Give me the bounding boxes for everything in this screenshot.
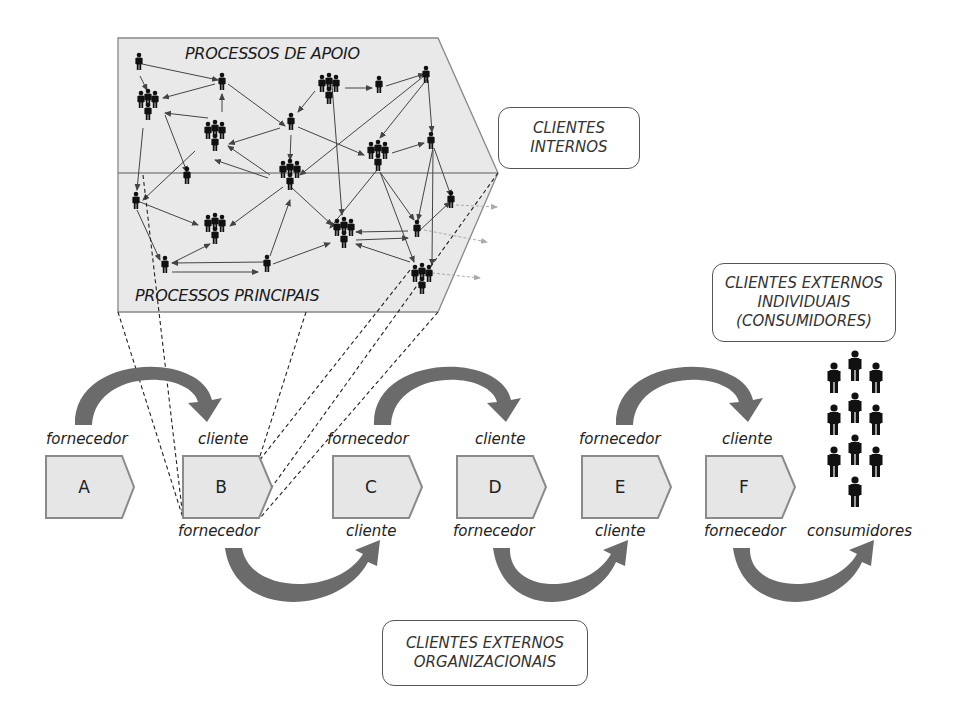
consumers-label: consumidores — [807, 522, 912, 540]
role-label-b-bottom: fornecedor — [178, 522, 260, 540]
role-label-d-top: cliente — [475, 430, 525, 448]
organizational-external-clients-callout: CLIENTES EXTERNOS ORGANIZACIONAIS — [382, 620, 588, 686]
role-label-e-top: fornecedor — [579, 430, 661, 448]
callout-line: CLIENTES EXTERNOS — [383, 634, 587, 653]
role-label-d-bottom: fornecedor — [453, 522, 535, 540]
box-label-f: F — [706, 477, 782, 497]
box-label-a: A — [46, 477, 122, 497]
callout-line: CLIENTES EXTERNOS — [713, 274, 895, 293]
box-label-e: E — [582, 477, 658, 497]
process-map — [118, 38, 498, 312]
support-processes-label: PROCESSOS DE APOIO — [185, 44, 360, 63]
box-label-b: B — [183, 477, 259, 497]
role-label-c-bottom: cliente — [346, 522, 396, 540]
main-processes-label: PROCESSOS PRINCIPAIS — [135, 286, 319, 305]
callout-line: (CONSUMIDORES) — [713, 312, 895, 331]
role-label-b-top: cliente — [198, 430, 248, 448]
box-label-d: D — [457, 477, 533, 497]
diagram-canvas — [0, 0, 970, 714]
callout-line: ORGANIZACIONAIS — [383, 653, 587, 672]
individual-external-clients-callout: CLIENTES EXTERNOS INDIVIDUAIS (CONSUMIDO… — [712, 263, 896, 342]
consumers-crowd — [828, 350, 883, 507]
role-label-e-bottom: cliente — [595, 522, 645, 540]
role-label-c-top: fornecedor — [327, 430, 409, 448]
internal-clients-callout: CLIENTES INTERNOS — [498, 107, 640, 169]
callout-line: INTERNOS — [499, 138, 639, 157]
callout-line: INDIVIDUAIS — [713, 293, 895, 312]
callout-line: CLIENTES — [499, 119, 639, 138]
role-label-f-top: cliente — [722, 430, 772, 448]
role-label-f-bottom: fornecedor — [704, 522, 786, 540]
box-label-c: C — [333, 477, 409, 497]
role-label-a-top: fornecedor — [46, 430, 128, 448]
chain-boxes — [46, 456, 795, 518]
